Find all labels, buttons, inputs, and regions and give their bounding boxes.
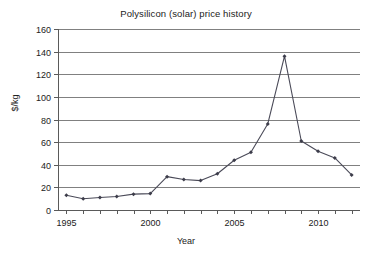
svg-text:1995: 1995	[56, 218, 76, 228]
data-point-markers	[64, 54, 353, 201]
svg-text:20: 20	[41, 183, 51, 193]
svg-text:2010: 2010	[308, 218, 328, 228]
svg-text:80: 80	[41, 116, 51, 126]
y-axis-ticks: 020406080100120140160	[36, 25, 58, 216]
x-axis-label: Year	[0, 236, 372, 246]
plot-area: 020406080100120140160 1995200020052010	[0, 0, 372, 259]
svg-text:2005: 2005	[224, 218, 244, 228]
svg-text:2000: 2000	[140, 218, 160, 228]
svg-text:160: 160	[36, 25, 51, 35]
data-series	[66, 56, 351, 199]
svg-text:120: 120	[36, 70, 51, 80]
svg-text:60: 60	[41, 138, 51, 148]
axis-lines	[59, 29, 361, 211]
gridlines	[58, 30, 360, 188]
x-axis-ticks: 1995200020052010	[56, 210, 352, 228]
svg-text:100: 100	[36, 93, 51, 103]
svg-text:140: 140	[36, 48, 51, 58]
polysilicon-price-chart: Polysilicon (solar) price history $/kg 0…	[0, 0, 372, 259]
svg-text:40: 40	[41, 161, 51, 171]
svg-text:0: 0	[46, 206, 51, 216]
